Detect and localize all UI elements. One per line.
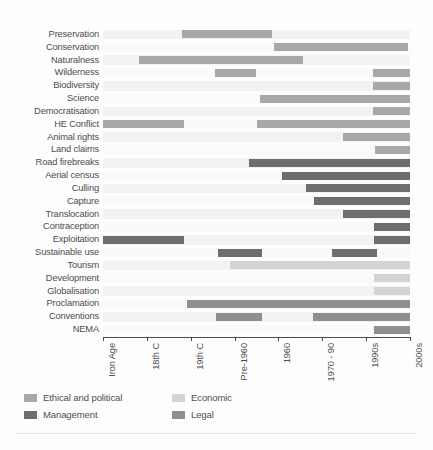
bar-segment[interactable]: [230, 261, 410, 269]
x-axis-tick-label: 2000s: [414, 343, 424, 368]
bar-segment[interactable]: [274, 43, 408, 51]
category-label: Wilderness: [0, 67, 99, 77]
category-label: Sustainable use: [0, 247, 99, 257]
category-label: Land claims: [0, 144, 99, 154]
bar-segment[interactable]: [187, 300, 410, 308]
legend-label: Ethical and political: [43, 392, 122, 403]
x-axis-tick: [191, 337, 192, 341]
category-label: Science: [0, 93, 99, 103]
legend-item[interactable]: Ethical and political: [24, 392, 122, 403]
legend-item[interactable]: Economic: [172, 392, 232, 403]
bar-segment[interactable]: [332, 249, 377, 257]
bar-segment[interactable]: [215, 69, 257, 77]
bar-segment[interactable]: [103, 236, 184, 244]
bar-segment[interactable]: [249, 159, 410, 167]
bar-segment[interactable]: [257, 120, 410, 128]
bar-segment[interactable]: [216, 313, 262, 321]
category-label: Conventions: [0, 311, 99, 321]
legend-swatch-icon: [24, 394, 37, 402]
bar-segment[interactable]: [374, 287, 410, 295]
legend-item[interactable]: Management: [24, 409, 97, 420]
category-label: Preservation: [0, 29, 99, 39]
legend-swatch-icon: [24, 411, 37, 419]
category-axis-labels: PreservationConservationNaturalnessWilde…: [0, 28, 99, 336]
category-label: Culling: [0, 183, 99, 193]
chart-legend: Ethical and politicalEconomicManagementL…: [24, 392, 314, 432]
category-label: Aerial census: [0, 170, 99, 180]
category-label: Contraception: [0, 221, 99, 231]
x-axis-tick: [322, 337, 323, 341]
category-label: Globalisation: [0, 286, 99, 296]
row-stripe: [103, 273, 410, 283]
category-label: Biodiversity: [0, 80, 99, 90]
row-stripe: [103, 107, 410, 117]
legend-label: Legal: [191, 409, 214, 420]
legend-label: Management: [43, 409, 97, 420]
bar-segment[interactable]: [375, 146, 410, 154]
x-axis-tick-label: 19th C: [195, 343, 205, 370]
bar-segment[interactable]: [313, 313, 410, 321]
legend-swatch-icon: [172, 394, 185, 402]
x-axis-tick-label: 1960: [282, 343, 292, 363]
row-stripe: [103, 286, 410, 296]
bar-segment[interactable]: [343, 133, 410, 141]
category-label: NEMA: [0, 324, 99, 334]
x-axis-tick-label: 1970 - 90: [326, 343, 336, 381]
bar-segment[interactable]: [218, 249, 262, 257]
bar-segment[interactable]: [260, 95, 410, 103]
x-axis-tick: [103, 337, 104, 341]
x-axis-tick-label: Iron Age: [107, 343, 117, 377]
bar-segment[interactable]: [343, 210, 410, 218]
row-stripe: [103, 81, 410, 91]
x-axis-tick-label: 1990s: [370, 343, 380, 368]
legend-swatch-icon: [172, 411, 185, 419]
x-axis-tick-label: Pre-1960: [239, 343, 249, 380]
bar-segment[interactable]: [373, 107, 410, 115]
x-axis-tick: [410, 337, 411, 341]
bar-segment[interactable]: [373, 82, 410, 90]
row-stripe: [103, 68, 410, 78]
x-axis-tick-label: 18th C: [151, 343, 161, 370]
bar-segment[interactable]: [374, 274, 410, 282]
category-label: Conservation: [0, 42, 99, 52]
category-label: Translocation: [0, 209, 99, 219]
x-axis-tick: [147, 337, 148, 341]
bottom-divider: [16, 433, 416, 434]
bar-segment[interactable]: [374, 326, 410, 334]
bar-segment[interactable]: [374, 236, 410, 244]
category-label: Development: [0, 273, 99, 283]
bar-segment[interactable]: [373, 69, 410, 77]
category-label: Road firebreaks: [0, 157, 99, 167]
x-axis-tick: [235, 337, 236, 341]
x-axis-line: [103, 337, 411, 338]
row-stripe: [103, 222, 410, 232]
category-label: Capture: [0, 196, 99, 206]
category-label: Animal rights: [0, 132, 99, 142]
bar-segment[interactable]: [103, 120, 184, 128]
row-stripe: [103, 145, 410, 155]
category-label: Exploitation: [0, 234, 99, 244]
row-stripe: [103, 325, 410, 335]
x-axis-tick: [366, 337, 367, 341]
bar-segment[interactable]: [139, 56, 303, 64]
legend-label: Economic: [191, 392, 232, 403]
legend-item[interactable]: Legal: [172, 409, 214, 420]
category-label: Democratisation: [0, 106, 99, 116]
category-label: HE Conflict: [0, 119, 99, 129]
bar-segment[interactable]: [282, 172, 410, 180]
x-axis-tick: [278, 337, 279, 341]
category-label: Naturalness: [0, 55, 99, 65]
chart-figure: PreservationConservationNaturalnessWilde…: [0, 0, 433, 450]
category-label: Tourism: [0, 260, 99, 270]
bar-segment[interactable]: [314, 197, 410, 205]
bar-segment[interactable]: [374, 223, 410, 231]
category-label: Proclamation: [0, 298, 99, 308]
plot-area: [103, 28, 410, 336]
bar-segment[interactable]: [182, 30, 272, 38]
bar-segment[interactable]: [306, 184, 410, 192]
